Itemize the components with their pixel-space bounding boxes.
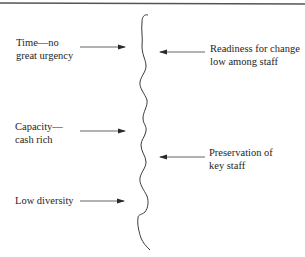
driving-force-time: Time—no great urgency xyxy=(16,36,73,62)
label-line: low among staff xyxy=(210,55,300,68)
label-line: cash rich xyxy=(15,133,63,146)
driving-force-diversity: Low diversity xyxy=(15,194,74,207)
equilibrium-wavy-line xyxy=(138,15,150,250)
label-line: Low diversity xyxy=(15,194,74,207)
label-line: Time—no xyxy=(16,36,73,49)
restraining-force-readiness: Readiness for change low among staff xyxy=(210,42,300,68)
top-rule xyxy=(0,3,305,4)
label-line: great urgency xyxy=(16,49,73,62)
driving-force-capacity: Capacity— cash rich xyxy=(15,120,63,146)
label-line: key staff xyxy=(209,159,273,172)
restraining-force-preservation: Preservation of key staff xyxy=(209,146,273,172)
label-line: Preservation of xyxy=(209,146,273,159)
label-line: Readiness for change xyxy=(210,42,300,55)
label-line: Capacity— xyxy=(15,120,63,133)
